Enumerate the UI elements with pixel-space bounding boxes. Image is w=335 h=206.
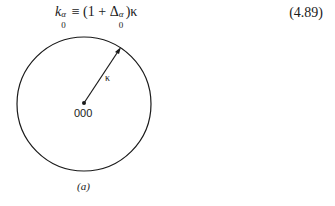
- fermi-sphere-diagram: [0, 0, 335, 206]
- center-dot: [82, 101, 86, 105]
- radius-arrow: [84, 50, 119, 103]
- arrowhead-icon: [115, 47, 121, 54]
- radius-label: κ: [105, 72, 110, 83]
- figure-caption: (a): [77, 180, 90, 192]
- center-label: 000: [74, 107, 92, 119]
